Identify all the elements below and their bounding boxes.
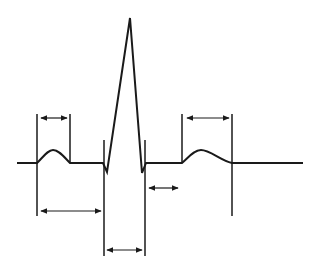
- ecg-trace: [17, 18, 303, 173]
- ecg-svg: [0, 0, 320, 276]
- ecg-diagram: [0, 0, 320, 276]
